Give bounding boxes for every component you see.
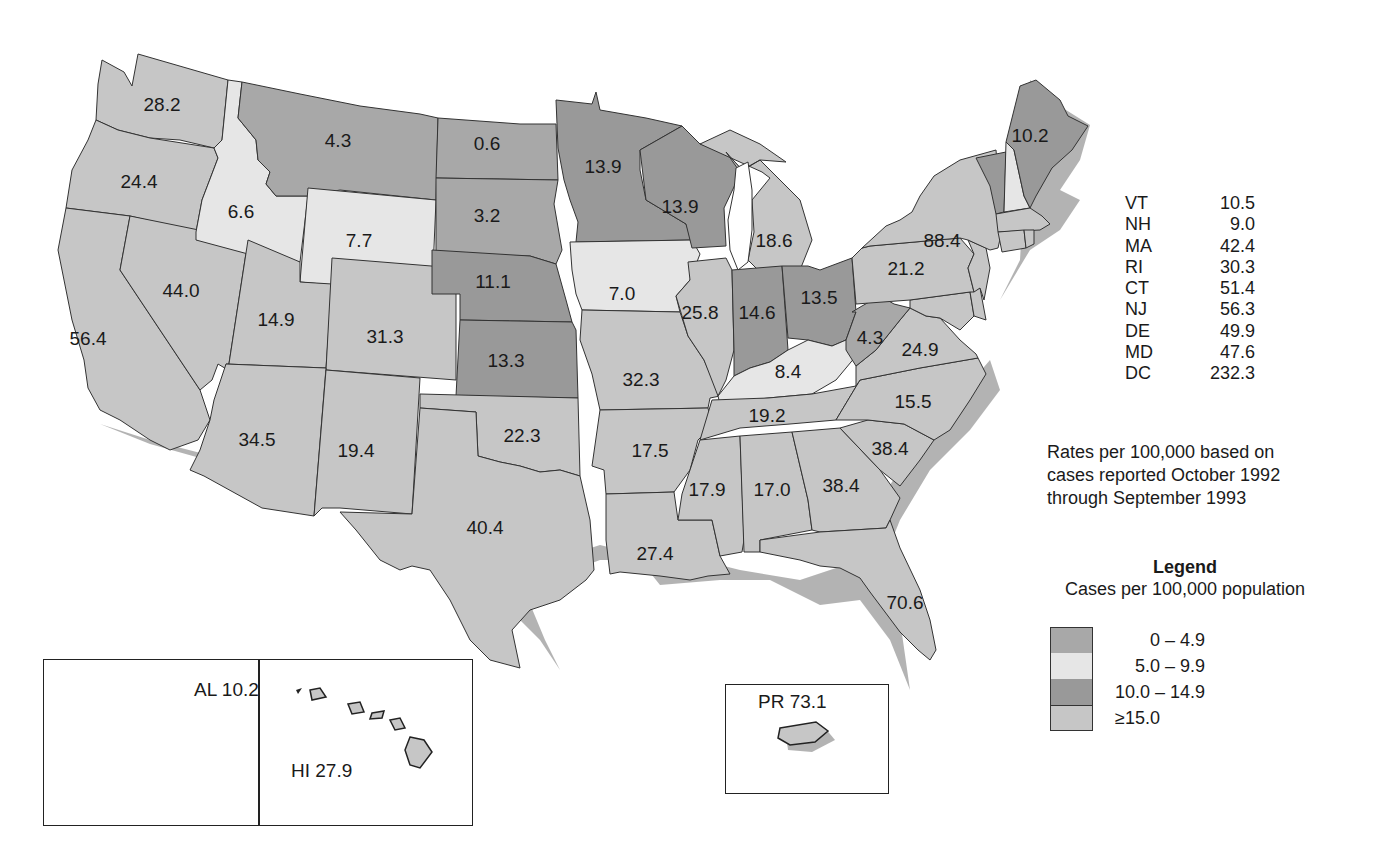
label-me: 10.2 (1012, 125, 1049, 146)
label-wa: 28.2 (144, 94, 181, 115)
state-abbr: VT (1125, 193, 1175, 214)
legend-item: ≥15.0 (1050, 705, 1205, 731)
label-tn: 19.2 (749, 405, 786, 426)
label-ms: 17.9 (689, 479, 726, 500)
legend-swatch (1050, 627, 1093, 653)
hawaii-inset: HI 27.9 (258, 659, 473, 826)
legend: Legend Cases per 100,000 population 0 – … (1040, 556, 1340, 600)
table-row: NH9.0 (1125, 214, 1255, 235)
state-value: 10.5 (1220, 193, 1255, 214)
label-al: 17.0 (754, 479, 791, 500)
states (58, 54, 1088, 668)
state-abbr: NJ (1125, 299, 1175, 320)
small-states-table: VT10.5 NH9.0 MA42.4 RI30.3 CT51.4 NJ56.3… (1125, 193, 1255, 385)
legend-item: 5.0 – 9.9 (1050, 653, 1205, 679)
label-ar: 17.5 (632, 440, 669, 461)
label-wi: 13.9 (662, 196, 699, 217)
legend-item: 10.0 – 14.9 (1050, 679, 1205, 705)
state-value: 56.3 (1220, 299, 1255, 320)
label-ok: 22.3 (504, 425, 541, 446)
puerto-rico-label: PR 73.1 (758, 691, 827, 713)
label-id: 6.6 (228, 201, 254, 222)
legend-swatch (1050, 679, 1093, 705)
hawaii-label: HI 27.9 (291, 760, 352, 782)
state-abbr: CT (1125, 278, 1175, 299)
alaska-inset: AL 10.2 (43, 659, 260, 826)
label-mt: 4.3 (325, 130, 351, 151)
puerto-rico-inset: PR 73.1 (725, 684, 889, 794)
legend-title: Legend (1040, 556, 1330, 578)
label-wv: 4.3 (857, 327, 883, 348)
legend-label: 10.0 – 14.9 (1093, 682, 1205, 703)
state-value: 42.4 (1220, 236, 1255, 257)
table-row: RI30.3 (1125, 257, 1255, 278)
legend-item: 0 – 4.9 (1050, 627, 1205, 653)
table-row: CT51.4 (1125, 278, 1255, 299)
legend-items: 0 – 4.9 5.0 – 9.9 10.0 – 14.9 ≥15.0 (1050, 627, 1205, 731)
legend-label: 5.0 – 9.9 (1093, 656, 1205, 677)
label-pa: 21.2 (888, 258, 925, 279)
table-row: DE49.9 (1125, 321, 1255, 342)
label-sc: 38.4 (872, 438, 909, 459)
note-line-2: cases reported October 1992 (1047, 464, 1347, 487)
label-tx: 40.4 (467, 517, 504, 538)
label-nd: 0.6 (474, 133, 500, 154)
label-ks: 13.3 (488, 350, 525, 371)
state-abbr: MD (1125, 342, 1175, 363)
state-value: 47.6 (1220, 342, 1255, 363)
label-wy: 7.7 (346, 230, 372, 251)
table-row: MD47.6 (1125, 342, 1255, 363)
state-abbr: MA (1125, 236, 1175, 257)
legend-label: 0 – 4.9 (1093, 630, 1205, 651)
label-mn: 13.9 (585, 156, 622, 177)
note-line-1: Rates per 100,000 based on (1047, 441, 1347, 464)
state-ct[interactable] (998, 230, 1026, 252)
label-ne: 11.1 (475, 271, 511, 292)
label-nm: 19.4 (338, 440, 375, 461)
label-ky: 8.4 (775, 361, 802, 382)
state-ri[interactable] (1024, 230, 1034, 248)
label-co: 31.3 (367, 326, 404, 347)
state-value: 9.0 (1230, 214, 1255, 235)
state-value: 232.3 (1210, 363, 1255, 384)
label-or: 24.4 (121, 171, 158, 192)
state-abbr: DC (1125, 363, 1175, 384)
legend-swatch (1050, 705, 1093, 731)
legend-label: ≥15.0 (1093, 708, 1205, 729)
state-value: 30.3 (1220, 257, 1255, 278)
label-la: 27.4 (637, 543, 674, 564)
label-il: 25.8 (682, 302, 719, 323)
label-sd: 3.2 (474, 205, 500, 226)
legend-subtitle: Cases per 100,000 population (1040, 578, 1330, 600)
state-abbr: NH (1125, 214, 1175, 235)
label-ga: 38.4 (823, 475, 860, 496)
alaska-label: AL 10.2 (194, 679, 259, 701)
label-oh: 13.5 (801, 287, 838, 308)
state-value: 51.4 (1220, 278, 1255, 299)
table-row: VT10.5 (1125, 193, 1255, 214)
table-row: DC232.3 (1125, 363, 1255, 384)
state-abbr: RI (1125, 257, 1175, 278)
label-az: 34.5 (239, 429, 276, 450)
label-ny: 88.4 (924, 230, 961, 251)
state-value: 49.9 (1220, 321, 1255, 342)
note-line-3: through September 1993 (1047, 487, 1347, 510)
label-nv: 44.0 (163, 280, 200, 301)
label-ut: 14.9 (258, 309, 295, 330)
legend-swatch (1050, 653, 1093, 679)
label-ia: 7.0 (609, 283, 635, 304)
label-fl: 70.6 (887, 592, 924, 613)
data-note: Rates per 100,000 based on cases reporte… (1047, 441, 1347, 510)
label-mo: 32.3 (623, 369, 660, 390)
label-va: 24.9 (902, 339, 939, 360)
state-abbr: DE (1125, 321, 1175, 342)
label-mi: 18.6 (756, 230, 793, 251)
label-in: 14.6 (739, 302, 776, 323)
table-row: NJ56.3 (1125, 299, 1255, 320)
table-row: MA42.4 (1125, 236, 1255, 257)
label-ca: 56.4 (70, 328, 107, 349)
label-nc: 15.5 (895, 391, 932, 412)
